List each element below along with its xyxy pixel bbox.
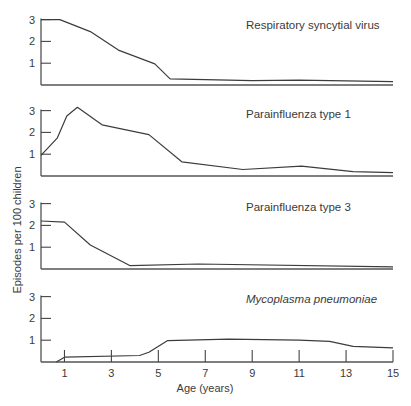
y-axis-label: Episodes per 100 children bbox=[11, 166, 23, 293]
panel-title: Parainfluenza type 3 bbox=[246, 201, 351, 213]
x-tick-label: 1 bbox=[61, 367, 67, 379]
panel-3: 123Parainfluenza type 3 bbox=[29, 198, 393, 269]
x-tick-label: 5 bbox=[155, 367, 161, 379]
y-tick-label: 3 bbox=[29, 14, 35, 26]
panel-title: Mycoplasma pneumoniae bbox=[246, 293, 377, 305]
x-tick-label: 15 bbox=[387, 367, 399, 379]
x-axis: 13579111315 bbox=[61, 350, 399, 379]
x-tick-label: 9 bbox=[249, 367, 255, 379]
panel-4: 123Mycoplasma pneumoniae bbox=[29, 291, 393, 362]
y-tick-label: 1 bbox=[29, 57, 35, 69]
panel-2: 123Parainfluenza type 1 bbox=[29, 105, 393, 176]
y-tick-label: 3 bbox=[29, 198, 35, 210]
x-tick-label: 13 bbox=[340, 367, 352, 379]
panel-1: 123Respiratory syncytial virus bbox=[29, 14, 393, 85]
y-tick-label: 1 bbox=[29, 241, 35, 253]
series-line bbox=[41, 221, 393, 267]
y-tick-label: 2 bbox=[29, 312, 35, 324]
x-axis-label: Age (years) bbox=[177, 382, 234, 394]
y-tick-label: 1 bbox=[29, 334, 35, 346]
y-tick-label: 2 bbox=[29, 126, 35, 138]
series-line bbox=[56, 339, 393, 362]
y-tick-label: 3 bbox=[29, 291, 35, 303]
y-tick-label: 2 bbox=[29, 35, 35, 47]
y-tick-label: 2 bbox=[29, 219, 35, 231]
y-tick-label: 3 bbox=[29, 105, 35, 117]
chart-canvas: 123Respiratory syncytial virus123Parainf… bbox=[0, 0, 411, 406]
panel-title: Parainfluenza type 1 bbox=[246, 108, 351, 120]
x-tick-label: 11 bbox=[293, 367, 304, 379]
panel-title: Respiratory syncytial virus bbox=[246, 19, 380, 31]
y-tick-label: 1 bbox=[29, 148, 35, 160]
x-tick-label: 3 bbox=[108, 367, 114, 379]
x-tick-label: 7 bbox=[202, 367, 208, 379]
